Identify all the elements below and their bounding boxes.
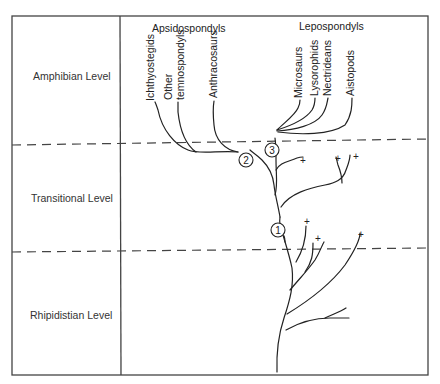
branch-anthracosaurs bbox=[213, 101, 238, 152]
extinct-marker-1: + bbox=[300, 155, 306, 166]
group-label-lepospondyls: Lepospondyls bbox=[299, 20, 364, 32]
svg-text:2: 2 bbox=[243, 155, 249, 166]
svg-text:3: 3 bbox=[269, 145, 275, 156]
node-3: 3 bbox=[265, 143, 279, 157]
branch-ichthyostegids bbox=[155, 102, 238, 152]
level-label-transitional: Transitional Level bbox=[31, 192, 113, 204]
node-2: 2 bbox=[239, 153, 253, 167]
phylogeny-diagram: Amphibian Level Transitional Level Rhipi… bbox=[0, 0, 440, 384]
taxon-microsaurs: Microsaurs bbox=[292, 47, 304, 98]
extinct-marker-4: + bbox=[304, 216, 310, 227]
node-1: 1 bbox=[271, 223, 285, 237]
column-divider bbox=[120, 16, 121, 375]
branch-extinct-lower bbox=[296, 226, 306, 262]
extinct-marker-5: + bbox=[315, 233, 321, 244]
extinct-marker-2: + bbox=[335, 153, 341, 164]
taxon-aistopods: Aistopods bbox=[344, 50, 356, 96]
branch-temnospondyls bbox=[178, 102, 196, 152]
extinct-marker-3: + bbox=[353, 151, 359, 162]
extinct-marker-6: + bbox=[358, 229, 364, 240]
level-label-rhipidistian: Rhipidistian Level bbox=[30, 309, 112, 321]
taxon-temnospondyls: temnospondyls bbox=[174, 29, 186, 100]
taxon-nectrideans: Nectrideans bbox=[321, 40, 333, 96]
phylogenetic-tree bbox=[155, 98, 360, 372]
branch-lower-right bbox=[286, 318, 349, 330]
taxon-anthracosaurs: Anthracosaurs bbox=[207, 30, 219, 98]
taxon-lysorophids: Lysorophids bbox=[308, 40, 320, 96]
extinction-markers: + + + + + + bbox=[300, 151, 364, 244]
branch-nectrideans bbox=[277, 98, 328, 131]
taxon-other: Other bbox=[162, 73, 174, 100]
branch-lower-fork bbox=[325, 308, 346, 318]
branch-extinct-mid bbox=[276, 157, 303, 170]
svg-text:1: 1 bbox=[275, 225, 281, 236]
level-label-amphibian: Amphibian Level bbox=[33, 70, 111, 82]
taxon-ichthyostegids: Ichthyostegids bbox=[144, 34, 156, 101]
level-divider-lower bbox=[12, 248, 428, 252]
branch-to-extinct-right bbox=[287, 233, 360, 314]
